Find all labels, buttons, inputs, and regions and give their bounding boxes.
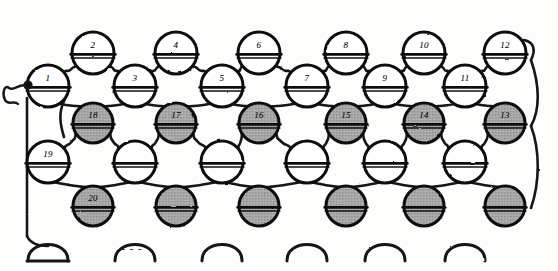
- stitch-row-fourth-open-2: [200, 141, 245, 183]
- stitch-row-second-odd-4: [363, 65, 408, 107]
- stitch-row-second-odd-1: [113, 65, 158, 107]
- cast-on-arc: [365, 245, 405, 262]
- stitch-diagram-canvas: 2468101213579111817161514131920 - - -: [0, 0, 558, 271]
- stitch-row-top-even-3: [324, 32, 369, 74]
- stitch-row-second-odd-2: [200, 65, 245, 107]
- stitch-row-fifth-shaded-1: [155, 186, 198, 226]
- stitch-row-fifth-shaded-0: [72, 186, 115, 226]
- stitch-row-third-shaded-4: [403, 103, 446, 143]
- stitch-row-top-even-2: [237, 32, 282, 74]
- stitch-row-fourth-open-0: [26, 141, 71, 183]
- stitch-row-top-even-0: [71, 32, 116, 74]
- stitch-row-fifth-shaded-5: [484, 186, 527, 226]
- stitch-row-fifth-shaded-3: [325, 186, 368, 226]
- stitch-row-fourth-open-1: [113, 141, 158, 183]
- stitch-row-fifth-shaded-2: [238, 186, 281, 226]
- stitch-row-fourth-open-3: [285, 141, 330, 183]
- stitch-diagram-svg: [0, 0, 558, 271]
- yarn-tail-path: [4, 85, 27, 104]
- cast-on-arc: [115, 245, 155, 262]
- stitch-row-top-even-1: [154, 32, 199, 74]
- stitch-row-third-shaded-2: [238, 103, 281, 143]
- stitch-row-second-odd-5: [443, 65, 488, 107]
- stitch-row-top-even-4: [402, 32, 447, 74]
- stitch-row-third-shaded-1: [155, 103, 198, 143]
- stitch-row-third-shaded-5: [484, 103, 527, 143]
- yarn-tail-knot: [25, 82, 32, 89]
- cast-on-arc-layer: [27, 245, 485, 262]
- cast-on-arc: [287, 245, 327, 262]
- cast-on-arc: [445, 245, 485, 262]
- stitch-row-fourth-open-4: [363, 141, 408, 183]
- stitch-row-third-shaded-0: [72, 103, 115, 143]
- cast-on-arc: [202, 245, 242, 262]
- stitch-row-top-even-5: [483, 32, 528, 74]
- stitch-row-second-odd-3: [285, 65, 330, 107]
- stitch-circle-layer: [26, 32, 528, 226]
- stitch-row-fourth-open-5: [443, 141, 488, 183]
- stitch-row-fifth-shaded-4: [403, 186, 446, 226]
- stitch-row-third-shaded-3: [325, 103, 368, 143]
